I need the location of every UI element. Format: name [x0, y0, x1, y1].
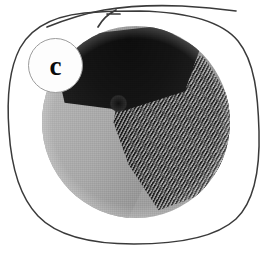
figure-panel: c	[0, 0, 269, 254]
panel-label-badge: c	[28, 38, 83, 93]
pointer-arrow-shaft	[47, 6, 236, 27]
panel-outline-and-annotations	[0, 0, 269, 254]
panel-label-text: c	[50, 53, 62, 80]
